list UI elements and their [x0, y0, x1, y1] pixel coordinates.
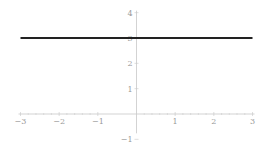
x-tick-label: −1: [92, 117, 104, 126]
x-tick-label: 3: [250, 117, 255, 126]
x-tick-label: 2: [211, 117, 216, 126]
tick-labels: −3−2−1123−11234: [15, 9, 255, 145]
x-tick-label: −2: [53, 117, 65, 126]
x-tick-label: 1: [173, 117, 178, 126]
y-tick-label: −1: [121, 135, 133, 144]
y-tick-label: 2: [127, 59, 132, 68]
line-chart: −3−2−1123−11234: [0, 0, 270, 155]
y-tick-label: 4: [127, 9, 132, 18]
y-tick-label: 1: [127, 85, 132, 94]
x-tick-label: −3: [15, 117, 27, 126]
